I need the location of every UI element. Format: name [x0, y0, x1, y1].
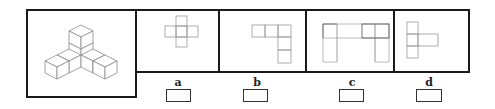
- answer-box-c[interactable]: [339, 89, 364, 102]
- option-label-d: d: [422, 77, 436, 89]
- answer-box-d[interactable]: [416, 89, 442, 102]
- option-label-b: b: [250, 77, 264, 89]
- answer-box-a[interactable]: [166, 89, 191, 102]
- option-label-a: a: [171, 77, 185, 89]
- answer-box-b[interactable]: [243, 89, 268, 102]
- option-label-c: c: [345, 77, 359, 89]
- net-option-c: [323, 24, 389, 62]
- net-option-a: [165, 16, 198, 47]
- cube-figure: [45, 25, 117, 79]
- net-option-d: [407, 22, 438, 58]
- net-option-b: [252, 25, 291, 63]
